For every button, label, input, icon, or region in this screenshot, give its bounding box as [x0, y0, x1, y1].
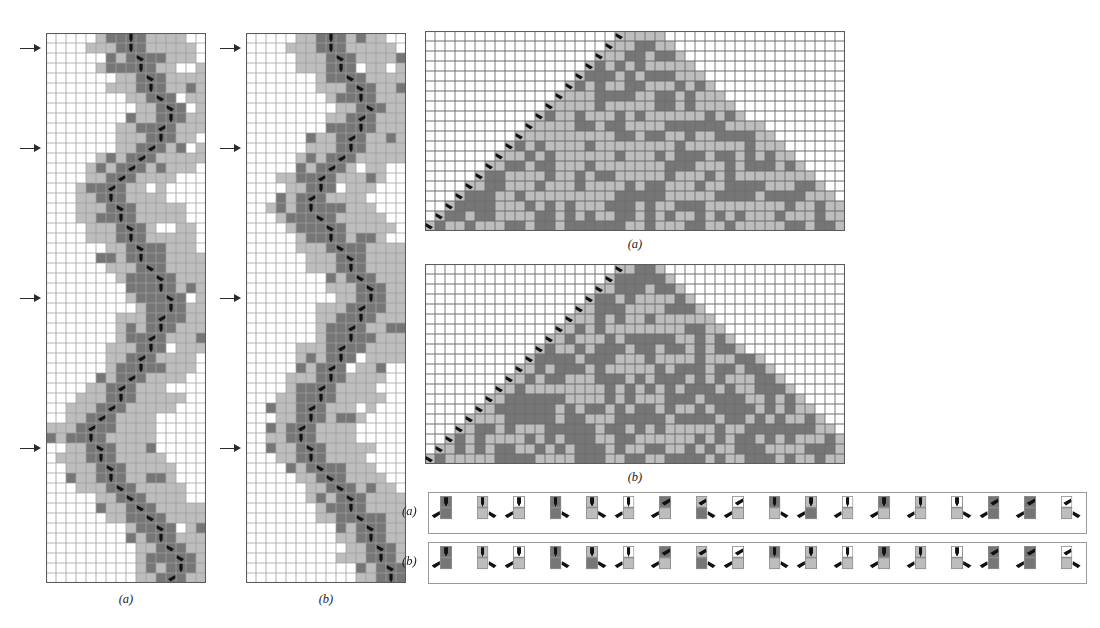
- row-marker-arrow: [20, 444, 42, 453]
- rule-cell: [831, 543, 868, 583]
- caption-triangle-a: (a): [425, 237, 845, 252]
- rule-cell: [831, 493, 868, 533]
- rule-cell: [1050, 493, 1087, 533]
- row-marker-arrow: [20, 44, 42, 53]
- rule-cell: [794, 543, 831, 583]
- rule-row-a: [428, 492, 1087, 534]
- rule-cell: [466, 493, 503, 533]
- rule-cell: [977, 543, 1014, 583]
- rule-cell: [867, 493, 904, 533]
- rule-cell: [575, 493, 612, 533]
- rule-cell: [977, 493, 1014, 533]
- row-marker-arrow: [220, 444, 242, 453]
- triangle-panel-b: [425, 264, 845, 464]
- rule-row-label-a: (a): [402, 504, 417, 519]
- rule-cell: [758, 493, 795, 533]
- row-marker-arrow: [220, 44, 242, 53]
- rule-cell: [648, 543, 685, 583]
- triangle-panel-a: [425, 31, 845, 231]
- rule-cell: [502, 493, 539, 533]
- caption-left-b: (b): [246, 592, 406, 607]
- rule-cell: [539, 493, 576, 533]
- row-marker-arrow: [20, 144, 42, 153]
- rule-cell: [466, 543, 503, 583]
- rule-row-b: [428, 542, 1087, 584]
- rule-cell: [904, 543, 941, 583]
- rule-cell: [904, 493, 941, 533]
- figure-root: (a) (b) (a) (b) (a) (b): [0, 0, 1100, 628]
- rule-cell: [685, 493, 722, 533]
- rule-cell: [721, 543, 758, 583]
- rule-cell: [685, 543, 722, 583]
- rule-cell: [648, 493, 685, 533]
- caption-triangle-b: (b): [425, 470, 845, 485]
- row-marker-arrow: [220, 144, 242, 153]
- rule-cell: [575, 543, 612, 583]
- rule-row-label-b: (b): [402, 554, 417, 569]
- rule-cell: [429, 543, 466, 583]
- rule-cell: [612, 493, 649, 533]
- rule-cell: [502, 543, 539, 583]
- rule-cell: [940, 493, 977, 533]
- rule-cell: [429, 493, 466, 533]
- rule-cell: [867, 543, 904, 583]
- rule-cell: [940, 543, 977, 583]
- rule-cell: [612, 543, 649, 583]
- left-evolution-panel-a: [46, 33, 206, 583]
- rule-cell: [539, 543, 576, 583]
- row-marker-arrow: [20, 294, 42, 303]
- rule-cell: [794, 493, 831, 533]
- rule-cell: [758, 543, 795, 583]
- rule-cell: [1013, 493, 1050, 533]
- rule-cell: [1013, 543, 1050, 583]
- rule-cell: [721, 493, 758, 533]
- row-marker-arrow: [220, 294, 242, 303]
- left-evolution-panel-b: [246, 33, 406, 583]
- caption-left-a: (a): [46, 592, 206, 607]
- rule-cell: [1050, 543, 1087, 583]
